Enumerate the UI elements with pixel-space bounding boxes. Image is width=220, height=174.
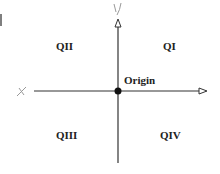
- origin-point: [115, 88, 122, 95]
- y-handwritten-icon: [114, 3, 121, 15]
- quadrant-3-label: QIII: [56, 129, 77, 141]
- quadrant-2-label: QII: [56, 40, 73, 52]
- origin-label: Origin: [124, 74, 155, 86]
- x-axis-arrow-icon: [199, 88, 207, 94]
- coordinate-plane: [0, 0, 220, 174]
- y-axis-arrow-icon: [115, 19, 121, 27]
- quadrant-1-label: QI: [163, 40, 176, 52]
- quadrant-4-label: QIV: [160, 129, 181, 141]
- x-handwritten-icon: [17, 87, 26, 96]
